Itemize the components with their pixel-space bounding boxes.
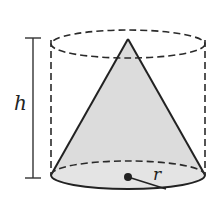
radius-label: r xyxy=(153,164,162,184)
cone-cylinder-diagram: r h xyxy=(0,0,222,200)
height-label: h xyxy=(14,91,27,115)
